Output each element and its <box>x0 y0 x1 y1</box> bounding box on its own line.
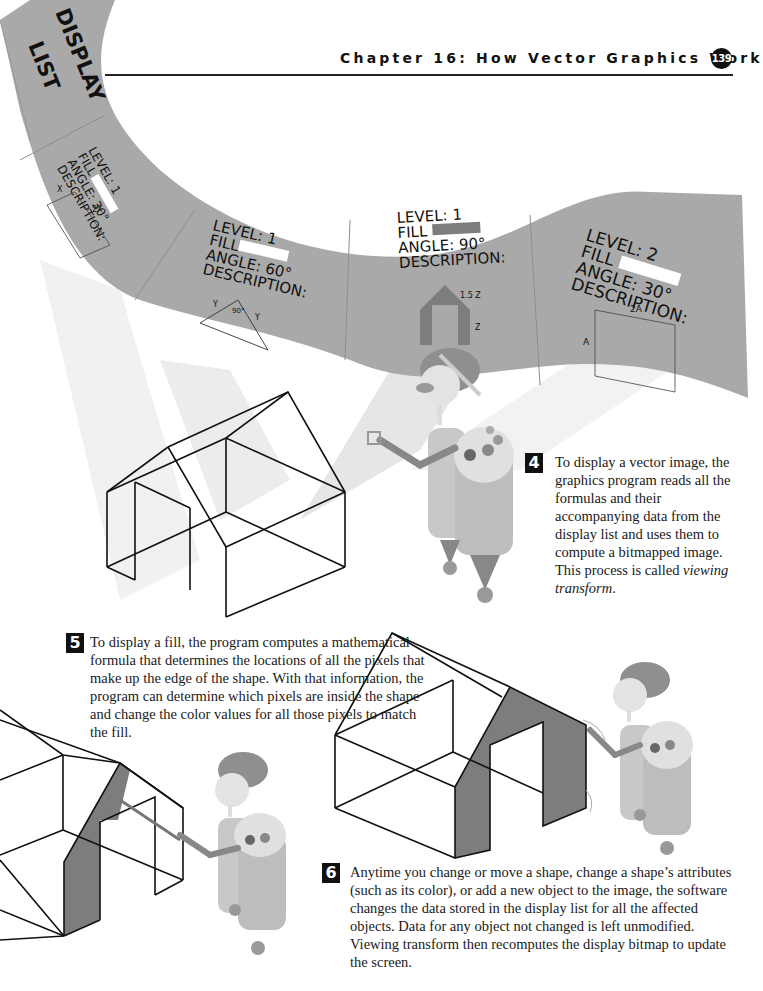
svg-text:2X: 2X <box>92 205 103 214</box>
svg-text:Z: Z <box>475 323 481 332</box>
svg-text:Y: Y <box>254 313 260 322</box>
step-5-text: To display a fill, the program computes … <box>90 634 425 740</box>
step-4-text: To display a vector image, the graphics … <box>555 454 731 578</box>
painting-house-left <box>0 710 183 940</box>
robot-illustration-3 <box>180 752 286 955</box>
svg-text:Y: Y <box>212 300 218 309</box>
svg-text:A: A <box>583 337 590 347</box>
step-5-callout: 5 To display a fill, the program compute… <box>90 633 430 741</box>
step-number-badge: 4 <box>525 453 543 473</box>
step-4-callout: 4 To display a vector image, the graphic… <box>555 453 740 597</box>
svg-text:2A: 2A <box>630 304 643 314</box>
svg-text:90°: 90° <box>232 307 244 315</box>
display-list-entry-3: LEVEL: 1 FILL ANGLE: 90° DESCRIPTION: <box>396 203 506 271</box>
step-6-text: Anytime you change or move a shape, chan… <box>350 864 731 970</box>
step-number-badge: 5 <box>66 633 84 653</box>
svg-text:1.5 Z: 1.5 Z <box>460 291 481 300</box>
robot-illustration-2 <box>583 662 693 855</box>
svg-text:X: X <box>57 185 63 194</box>
step-number-badge: 6 <box>322 863 340 883</box>
step-6-callout: 6 Anytime you change or move a shape, ch… <box>350 863 742 971</box>
step-4-suffix: . <box>612 580 616 596</box>
